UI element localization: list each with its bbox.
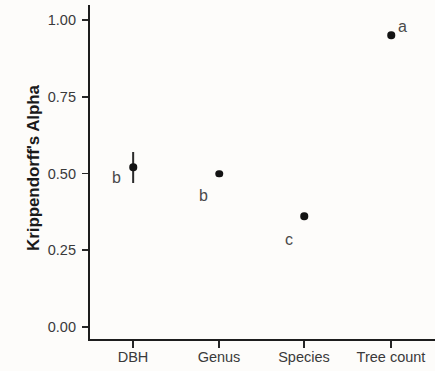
x-tick-label: Genus [198, 350, 241, 365]
chart-root: Krippendorff's Alpha 0.000.250.500.751.0… [0, 0, 435, 371]
y-tick-label: 0.50 [30, 167, 76, 182]
x-axis-line [88, 339, 435, 341]
x-tick-mark [303, 341, 305, 348]
data-point [387, 32, 395, 40]
significance-letter: c [285, 232, 293, 248]
y-axis-line [88, 5, 90, 341]
y-tick-label: 0.75 [30, 90, 76, 105]
y-tick-label: 0.25 [30, 243, 76, 258]
significance-letter: a [398, 19, 407, 35]
data-point [129, 164, 137, 172]
x-tick-mark [390, 341, 392, 348]
y-tick-label: 0.00 [30, 320, 76, 335]
data-point [215, 170, 223, 178]
x-tick-label: DBH [118, 350, 149, 365]
significance-letter: b [112, 170, 121, 186]
x-tick-label: Tree count [357, 350, 426, 365]
y-tick-label: 1.00 [30, 13, 76, 28]
significance-letter: b [199, 188, 208, 204]
data-point [300, 213, 308, 221]
x-tick-mark [218, 341, 220, 348]
x-tick-mark [132, 341, 134, 348]
x-tick-label: Species [278, 350, 330, 365]
